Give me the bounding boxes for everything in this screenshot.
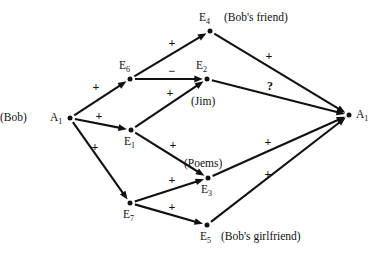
edge-sign-A1_left-to-E7: + (92, 141, 99, 153)
node-label-E6: E6 (119, 60, 130, 74)
arrowhead-icon (195, 168, 204, 175)
edge-E2-to-A1_right (212, 80, 345, 115)
node-label-subscript: 4 (206, 17, 210, 26)
node-dot-E4 (208, 29, 213, 34)
edge-sign-E3-to-A1_right: + (265, 136, 272, 148)
edge-sign-E1-to-E3: + (170, 139, 177, 151)
node-dot-E1 (129, 128, 134, 133)
arrowhead-icon (194, 218, 203, 225)
node-dot-A1_right (347, 113, 352, 118)
edge-line (214, 34, 341, 111)
node-label-E4: E4 (199, 12, 210, 26)
node-annotation-A1_left: (Bob) (0, 112, 27, 124)
node-label-base: E (124, 135, 131, 147)
arrowhead-icon (197, 33, 206, 40)
edge-line (211, 120, 342, 222)
edge-sign-E5-to-A1_right: + (265, 168, 272, 180)
edge-E5-to-A1_right (211, 118, 346, 222)
edge-A1_left-to-E7 (73, 122, 128, 199)
node-label-subscript: 1 (131, 141, 135, 150)
node-label-subscript: 6 (126, 65, 130, 74)
edge-E3-to-A1_right (213, 117, 346, 176)
edge-line (135, 181, 200, 202)
node-label-base: E (200, 230, 207, 242)
node-dot-E2 (205, 77, 210, 82)
node-label-E3: E3 (201, 184, 212, 198)
edge-sign-E7-to-E5: + (169, 201, 176, 213)
node-dot-A1_left (68, 116, 73, 121)
node-label-subscript: 5 (207, 236, 211, 245)
edge-line (212, 80, 341, 113)
node-label-E5: E5 (200, 231, 211, 245)
node-dot-E5 (205, 223, 210, 228)
influence-diagram: A1(Bob)E6E1E7E4(Bob's friend)E2(Jim)E3(P… (0, 0, 381, 260)
arrowhead-icon (117, 81, 126, 88)
node-dot-E6 (128, 77, 133, 82)
node-label-base: E (123, 208, 130, 220)
edge-line (73, 122, 125, 196)
arrowhead-icon (118, 124, 127, 131)
edge-sign-E6-to-E4: + (169, 37, 176, 49)
node-label-A1_right: A1 (356, 109, 368, 123)
edge-sign-E1-to-E2: + (167, 87, 174, 99)
node-label-base: E (201, 183, 208, 195)
node-label-base: E (199, 11, 206, 23)
node-annotation-E3: (Poems) (184, 158, 222, 170)
edge-E4-to-A1_right (214, 34, 345, 113)
node-label-E2: E2 (196, 60, 207, 74)
node-dot-E7 (128, 201, 133, 206)
node-label-base: E (119, 59, 126, 71)
node-label-subscript: 1 (364, 114, 368, 123)
node-label-E7: E7 (123, 209, 134, 223)
node-label-subscript: 1 (58, 117, 62, 126)
edge-sign-A1_left-to-E6: + (93, 81, 100, 93)
arrowhead-icon (195, 81, 204, 89)
node-label-base: E (196, 59, 203, 71)
node-label-A1_left: A1 (50, 112, 62, 126)
edge-sign-A1_left-to-E1: + (96, 110, 103, 122)
node-label-subscript: 3 (208, 189, 212, 198)
node-label-subscript: 2 (203, 65, 207, 74)
arrowhead-icon (194, 76, 203, 83)
edge-line (135, 204, 199, 222)
edge-line (213, 118, 342, 175)
edge-layer (0, 0, 381, 260)
node-annotation-E5: (Bob's girlfriend) (221, 231, 301, 243)
node-label-subscript: 7 (130, 214, 134, 223)
edge-sign-E7-to-E3: + (169, 174, 176, 186)
node-annotation-E2: (Jim) (191, 96, 215, 108)
edge-sign-E6-to-E2: − (169, 65, 176, 77)
edge-sign-E4-to-A1_right: + (266, 50, 273, 62)
edge-sign-E2-to-A1_right: ? (267, 80, 273, 92)
node-annotation-E4: (Bob's friend) (224, 12, 288, 24)
node-dot-E3 (206, 176, 211, 181)
node-label-E1: E1 (124, 136, 135, 150)
